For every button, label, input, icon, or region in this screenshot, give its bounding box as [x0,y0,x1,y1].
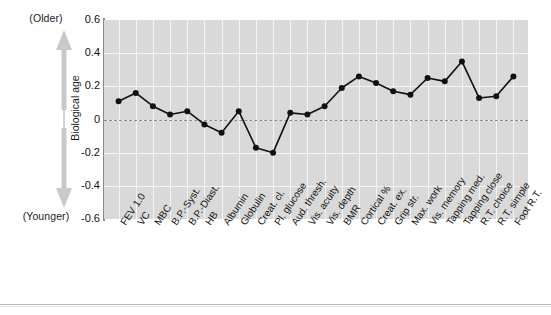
data-point-marker [339,85,345,91]
data-point-marker [322,103,328,109]
data-point-marker [150,103,156,109]
data-point-marker [184,108,190,114]
y-axis-tick-label: 0 [70,113,100,125]
data-point-marker [407,92,413,98]
data-point-marker [356,73,362,79]
data-point-marker [493,93,499,99]
data-point-marker [442,78,448,84]
data-point-marker [253,145,259,151]
y-axis-tick-label: -0.6 [70,212,100,224]
y-axis-tick-label: 0.2 [70,79,100,91]
data-point-marker [510,73,516,79]
footer-rule [0,304,551,305]
data-point-marker [201,121,207,127]
data-point-marker [116,98,122,104]
data-point-marker [236,108,242,114]
data-point-marker [287,110,293,116]
data-point-marker [476,95,482,101]
data-point-marker [219,130,225,136]
data-point-marker [390,88,396,94]
data-point-marker [425,75,431,81]
y-axis-tick-label: -0.2 [70,146,100,158]
data-point-marker [270,150,276,156]
data-point-marker [373,80,379,86]
data-point-marker [459,58,465,64]
data-point-marker [133,90,139,96]
chart-figure: (Older) Biological age (Younger) 0.60.40… [0,0,551,315]
series-polyline [119,61,514,152]
data-point-marker [304,112,310,118]
y-axis-tick-label: 0.6 [70,13,100,25]
y-axis-tick-label: -0.4 [70,179,100,191]
data-point-marker [167,112,173,118]
y-axis-tick-labels: 0.60.40.20-0.2-0.4-0.6 [66,20,100,219]
y-axis-tick-label: 0.4 [70,46,100,58]
x-axis-tick-labels: FEV 1.0VCMBCB.P.-Syst.B.P.-Diast.HBAlbum… [104,221,528,313]
footer-rule-secondary [0,306,551,307]
